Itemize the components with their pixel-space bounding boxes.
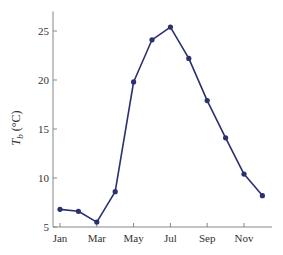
x-tick-label: Mar [88, 232, 107, 244]
y-axis-label: Tb (°C) [9, 111, 25, 146]
y-tick-label: 10 [38, 172, 50, 184]
data-point [223, 135, 228, 140]
data-point [186, 56, 191, 61]
x-tick-label: Nov [235, 232, 254, 244]
y-tick-label: 15 [38, 123, 50, 135]
x-tick-label: May [124, 232, 145, 244]
line-chart: 510152025 JanMarMayJulSepNov Tb (°C) [0, 0, 283, 255]
x-axis-ticks: JanMarMayJulSepNov [53, 223, 254, 244]
y-tick-label: 25 [38, 25, 50, 37]
y-tick-label: 5 [44, 221, 50, 233]
x-tick-label: Jan [53, 232, 68, 244]
y-axis-ticks: 510152025 [38, 25, 57, 233]
data-points [57, 24, 265, 224]
data-point [205, 98, 210, 103]
data-point [76, 209, 81, 214]
data-point [168, 24, 173, 29]
data-point [260, 193, 265, 198]
x-tick-label: Sep [199, 232, 216, 244]
data-point [113, 189, 118, 194]
axes [53, 11, 272, 227]
data-point [57, 207, 62, 212]
data-point [149, 37, 154, 42]
x-tick-label: Jul [164, 232, 177, 244]
data-point [131, 79, 136, 84]
y-tick-label: 20 [38, 74, 50, 86]
temperature-series-line [60, 27, 262, 222]
data-point [94, 220, 99, 225]
data-point [241, 171, 246, 176]
